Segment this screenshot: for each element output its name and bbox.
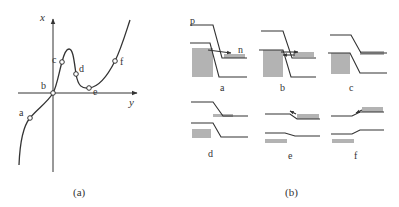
- subpanel-label-f: f: [354, 150, 358, 161]
- caption-a: (a): [73, 186, 86, 199]
- label-n: n: [238, 44, 243, 55]
- figure-canvas: x y a b c d e f (a) p n a b: [0, 0, 399, 207]
- axis-label-y: y: [128, 96, 134, 108]
- point-label-d: d: [79, 63, 84, 74]
- panel-a: x y a b c d e f (a): [18, 11, 137, 199]
- point-d-marker: [74, 72, 79, 77]
- subpanel-label-d: d: [208, 148, 213, 159]
- label-p: p: [190, 15, 195, 26]
- point-a-marker: [28, 116, 33, 121]
- point-f-marker: [113, 59, 118, 64]
- point-e-marker: [87, 86, 92, 91]
- subpanel-f: [331, 107, 384, 143]
- subpanel-label-b: b: [280, 82, 285, 93]
- subpanel-label-e: e: [288, 150, 293, 161]
- subpanel-label-a: a: [220, 82, 225, 93]
- panel-b: p n a b c d: [190, 15, 387, 199]
- point-label-b: b: [41, 80, 46, 91]
- point-label-e: e: [93, 86, 98, 97]
- subpanel-d: [191, 102, 248, 138]
- point-label-c: c: [52, 54, 57, 65]
- subpanel-b: [259, 31, 316, 77]
- subpanel-e: [265, 111, 320, 143]
- point-label-a: a: [19, 107, 24, 118]
- point-b-marker: [51, 91, 56, 96]
- point-c-marker: [60, 60, 65, 65]
- axis-label-x: x: [39, 11, 45, 23]
- subpanel-label-c: c: [349, 82, 354, 93]
- subpanel-c: [328, 35, 387, 74]
- caption-b: (b): [285, 186, 298, 199]
- point-label-f: f: [120, 56, 124, 67]
